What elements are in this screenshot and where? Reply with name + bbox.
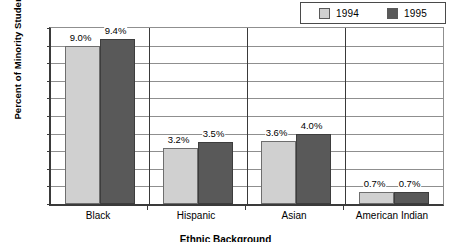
data-label: 9.4% (104, 26, 128, 36)
data-label: 4.0% (300, 121, 324, 131)
data-label: 0.7% (363, 179, 387, 189)
legend-entry-1994: 1994 (319, 8, 359, 19)
data-label: 0.7% (398, 179, 422, 189)
bar-asian-1995 (296, 134, 331, 204)
category-separator (149, 28, 150, 204)
data-label: 3.6% (265, 128, 289, 138)
legend-entry-1995: 1995 (387, 8, 427, 19)
y-axis-tick (47, 116, 51, 117)
bar-american-indian-1994 (359, 192, 394, 204)
y-axis-tick (47, 169, 51, 170)
category-separator (345, 28, 346, 204)
x-axis-tick (343, 205, 344, 210)
legend-swatch-1994 (319, 8, 330, 19)
x-axis-tick (147, 205, 148, 210)
y-axis-tick (47, 186, 51, 187)
x-axis-title: Ethnic Background (0, 234, 451, 242)
x-axis-category-label: Asian (281, 210, 306, 221)
y-axis-tick (47, 204, 51, 205)
bar-american-indian-1995 (394, 192, 429, 204)
bar-asian-1994 (261, 141, 296, 204)
bar-hispanic-1994 (163, 148, 198, 204)
bar-black-1994 (65, 46, 100, 204)
data-label: 9.0% (69, 33, 93, 43)
y-axis-tick (47, 134, 51, 135)
y-axis-tick (47, 28, 51, 29)
x-axis-category-label: Black (86, 210, 110, 221)
y-axis-tick (47, 46, 51, 47)
y-axis-tick (47, 81, 51, 82)
x-axis-category-label: American Indian (356, 210, 428, 221)
x-axis-category-label: Hispanic (177, 210, 215, 221)
legend-swatch-1995 (387, 8, 398, 19)
bar-black-1995 (100, 39, 135, 204)
x-axis-tick (245, 205, 246, 210)
legend-label-1994: 1994 (336, 8, 359, 19)
y-axis-tick (47, 63, 51, 64)
y-axis-tick (47, 151, 51, 152)
category-separator (247, 28, 248, 204)
data-label: 3.5% (202, 129, 226, 139)
legend-label-1995: 1995 (404, 8, 427, 19)
data-label: 3.2% (167, 135, 191, 145)
y-axis-title: Percent of Minority Students (12, 0, 23, 141)
y-axis-tick (47, 98, 51, 99)
chart-legend: 1994 1995 (300, 2, 446, 24)
bar-hispanic-1995 (198, 142, 233, 204)
